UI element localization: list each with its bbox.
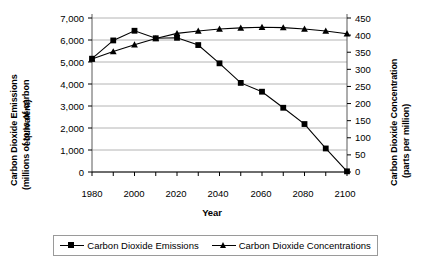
axis-ticks bbox=[88, 18, 351, 176]
legend-entry-emissions: Carbon Dioxide Emissions bbox=[60, 240, 198, 251]
axis-lines bbox=[92, 14, 347, 172]
chart-legend: Carbon Dioxide Emissions Carbon Dioxide … bbox=[53, 235, 378, 256]
legend-label: Carbon Dioxide Concentrations bbox=[239, 240, 371, 251]
chart-container: Carbon Dioxide Emissions (millions of to… bbox=[0, 0, 424, 269]
legend-label: Carbon Dioxide Emissions bbox=[87, 240, 198, 251]
triangle-marker-icon bbox=[212, 241, 236, 250]
series-layer bbox=[89, 24, 351, 174]
square-marker-icon bbox=[60, 241, 84, 250]
legend-entry-concentrations: Carbon Dioxide Concentrations bbox=[212, 240, 371, 251]
plot-area bbox=[0, 0, 424, 269]
gridlines bbox=[92, 18, 347, 172]
